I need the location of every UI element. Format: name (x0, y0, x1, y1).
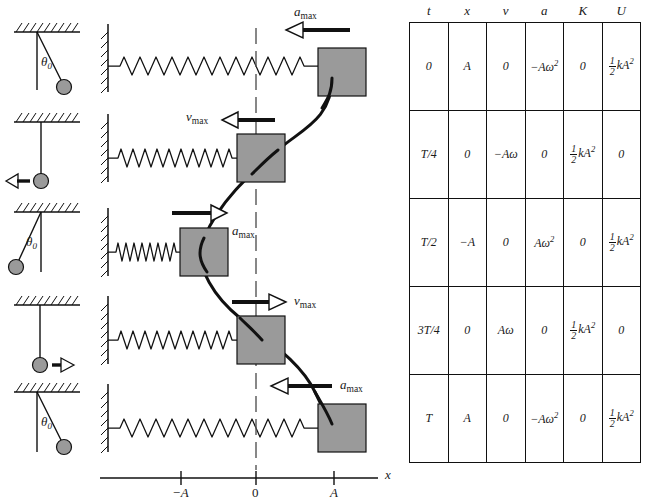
table-cell-x: 0 (448, 111, 487, 199)
table-cell-x: −A (448, 199, 487, 287)
col-header-t: t (410, 0, 449, 23)
table-cell-t: T/4 (410, 111, 449, 199)
spring-block-column (100, 0, 400, 502)
axis-label-x: x (385, 468, 391, 481)
pendulum-angle-label-5: θ0 (41, 415, 52, 431)
arrow-row-3 (172, 205, 227, 221)
pendulum-bob (57, 80, 72, 95)
pendulum-bob (9, 260, 24, 275)
arrow-label-row-2: vmax (186, 110, 208, 127)
table-cell-v: −Aω (487, 111, 526, 199)
table-cell-v: 0 (487, 23, 526, 111)
col-header-x: x (448, 0, 487, 23)
pendulum-angle-label-3: θ0 (26, 235, 37, 251)
table-cell-K: 0 (564, 375, 603, 463)
pendulum-bob (57, 440, 72, 455)
table-cell-v: 0 (487, 375, 526, 463)
table-cell-U: 0 (602, 111, 641, 199)
arrow-label-row-5: amax (340, 378, 363, 395)
table-cell-x: A (448, 375, 487, 463)
x-axis (100, 471, 378, 485)
col-header-U: U (602, 0, 641, 23)
table-row: 0A0−Aω2012kA2 (410, 23, 641, 111)
shm-figure: θ0 θ0 θ0 (0, 0, 645, 502)
table-cell-t: T/2 (410, 199, 449, 287)
arrow-row-2 (222, 112, 275, 128)
table-cell-K: 0 (564, 23, 603, 111)
table-cell-a: Aω2 (525, 199, 564, 287)
wall-row-2 (101, 114, 108, 183)
table-cell-a: 0 (525, 111, 564, 199)
pendulum-bob (33, 358, 48, 373)
table-cell-U: 12kA2 (602, 23, 641, 111)
table-cell-t: 0 (410, 23, 449, 111)
velocity-arrow-left (6, 174, 18, 188)
spring-row-2 (108, 149, 237, 167)
shm-values-table: t x v a K U 0A0−Aω2012kA2T/40−Aω012kA20T… (409, 0, 641, 462)
pendulum-row-4 (14, 296, 80, 373)
col-header-a: a (525, 0, 564, 23)
spring-row-1 (108, 57, 318, 75)
wall-row-3 (101, 208, 108, 277)
pendulum-row-2 (6, 113, 80, 189)
table-cell-K: 12kA2 (564, 111, 603, 199)
pendulum-angle-label-1: θ0 (41, 55, 52, 71)
table-row: T/40−Aω012kA20 (410, 111, 641, 199)
block-row-1 (318, 48, 366, 96)
table-cell-U: 12kA2 (602, 375, 641, 463)
table-cell-x: A (448, 23, 487, 111)
table-row: TA0−Aω2012kA2 (410, 375, 641, 463)
col-header-v: v (487, 0, 526, 23)
table-cell-a: −Aω2 (525, 375, 564, 463)
axis-tick-label-neg-a: −A (172, 486, 189, 499)
spring-row-5 (108, 419, 318, 437)
arrow-label-row-4: vmax (294, 294, 316, 311)
arrow-label-row-1: amax (294, 5, 317, 22)
wall-row-5 (101, 384, 108, 453)
table-cell-a: 0 (525, 287, 564, 375)
wall-row-4 (101, 296, 108, 365)
spring-row-4 (108, 331, 237, 349)
table-cell-v: Aω (487, 287, 526, 375)
block-row-2 (237, 134, 285, 182)
table-cell-t: T (410, 375, 449, 463)
table-cell-a: −Aω2 (525, 23, 564, 111)
table-cell-K: 12kA2 (564, 287, 603, 375)
table-cell-K: 0 (564, 199, 603, 287)
col-header-K: K (564, 0, 603, 23)
pendulum-row-3 (9, 203, 81, 275)
table-header-row: t x v a K U (410, 0, 641, 23)
velocity-arrow-right (61, 358, 74, 372)
arrow-row-5 (271, 378, 332, 394)
axis-tick-label-zero: 0 (252, 486, 259, 499)
wall-row-1 (101, 24, 108, 93)
pendulum-bob (34, 174, 49, 189)
table-cell-U: 12kA2 (602, 199, 641, 287)
table-row: 3T/40Aω012kA20 (410, 287, 641, 375)
arrow-row-1 (286, 22, 350, 38)
table-cell-U: 0 (602, 287, 641, 375)
table-row: T/2−A0Aω2012kA2 (410, 199, 641, 287)
table-cell-v: 0 (487, 199, 526, 287)
table-cell-t: 3T/4 (410, 287, 449, 375)
table-cell-x: 0 (448, 287, 487, 375)
arrow-row-4 (232, 294, 286, 310)
axis-tick-label-pos-a: A (330, 486, 338, 499)
spring-row-3 (108, 243, 180, 261)
arrow-label-row-3: amax (232, 224, 255, 241)
